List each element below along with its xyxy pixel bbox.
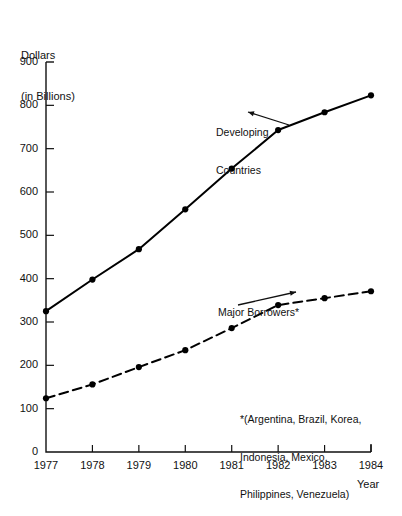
footnote: *(Argentina, Brazil, Korea, Indonesia, M… <box>240 388 361 516</box>
y-tick-label: 700 <box>8 142 38 154</box>
data-point <box>368 288 374 294</box>
x-axis-title: Year <box>357 478 379 492</box>
y-tick-label: 600 <box>8 185 38 197</box>
data-point <box>275 127 281 133</box>
y-tick-label: 0 <box>8 445 38 457</box>
series-label-developing-countries-line2: Countries <box>216 164 269 177</box>
y-tick-label: 500 <box>8 228 38 240</box>
data-point <box>368 92 374 98</box>
series-line-1 <box>46 291 371 398</box>
footnote-line2: Indonesia, Mexico, <box>240 451 361 464</box>
chart-figure: Dollars (in Billions) 010020030040050060… <box>0 0 402 516</box>
data-point <box>89 381 95 387</box>
data-point <box>43 308 49 314</box>
data-point <box>321 295 327 301</box>
series-label-developing-countries: Developing Countries <box>216 101 269 201</box>
data-point <box>43 395 49 401</box>
y-tick-label: 900 <box>8 55 38 67</box>
series-label-developing-countries-line1: Developing <box>216 126 269 139</box>
x-tick-label: 1980 <box>165 459 205 471</box>
series-points <box>43 92 374 401</box>
x-tick-label: 1979 <box>119 459 159 471</box>
series-label-major-borrowers: Major Borrowers* <box>218 281 299 344</box>
series-lines <box>46 95 371 398</box>
y-tick-label: 100 <box>8 402 38 414</box>
data-point <box>321 109 327 115</box>
data-point <box>182 347 188 353</box>
y-axis-ticks <box>46 105 54 408</box>
data-point <box>89 276 95 282</box>
x-tick-label: 1978 <box>72 459 112 471</box>
footnote-line1: *(Argentina, Brazil, Korea, <box>240 413 361 426</box>
y-tick-label: 800 <box>8 98 38 110</box>
y-tick-label: 200 <box>8 358 38 370</box>
data-point <box>182 206 188 212</box>
data-point <box>136 246 142 252</box>
series-label-major-borrowers-line1: Major Borrowers* <box>218 306 299 319</box>
y-tick-label: 300 <box>8 315 38 327</box>
y-tick-label: 400 <box>8 272 38 284</box>
data-point <box>136 364 142 370</box>
footnote-line3: Philippines, Venezuela) <box>240 488 361 501</box>
x-tick-label: 1977 <box>26 459 66 471</box>
